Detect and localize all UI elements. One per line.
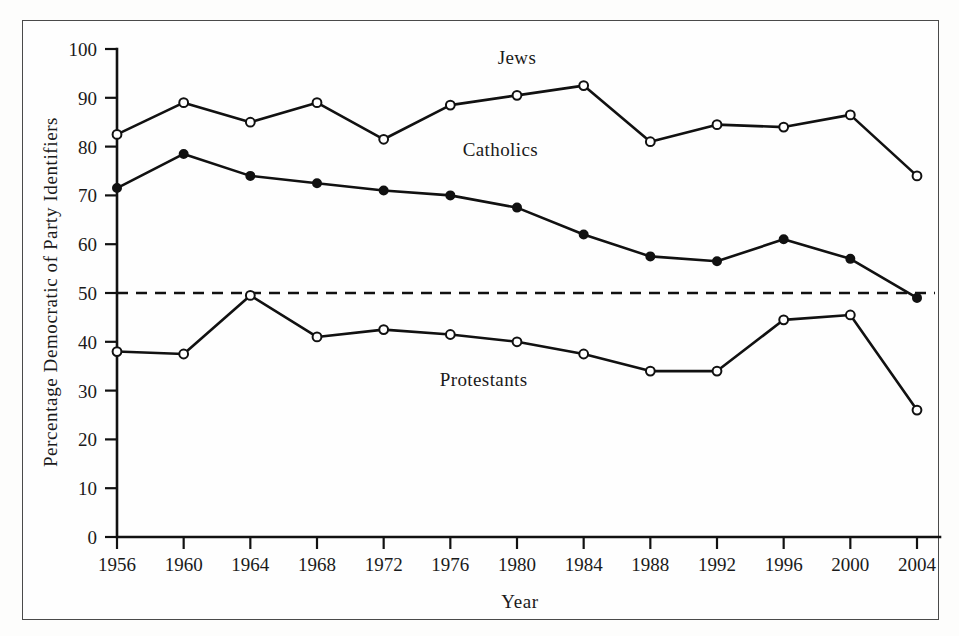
data-point-jews-1992 xyxy=(713,120,722,129)
data-point-catholics-1972 xyxy=(380,187,388,195)
data-point-protestants-2000 xyxy=(846,311,855,320)
x-tick-label: 1992 xyxy=(698,554,736,575)
data-point-protestants-1980 xyxy=(513,337,522,346)
y-tick-label: 70 xyxy=(78,185,97,206)
data-point-catholics-1960 xyxy=(180,150,188,158)
x-tick-label: 1980 xyxy=(498,554,536,575)
data-point-protestants-1968 xyxy=(313,333,322,342)
data-point-protestants-1984 xyxy=(579,350,588,359)
x-tick-label: 1988 xyxy=(631,554,669,575)
data-point-jews-1996 xyxy=(779,123,788,132)
figure-root: Percentage Democratic of Party Identifie… xyxy=(0,0,959,636)
y-tick-label: 40 xyxy=(78,332,97,353)
x-axis-title-label: Year xyxy=(501,591,538,612)
y-tick-label: 10 xyxy=(78,478,97,499)
x-tick-label: 2004 xyxy=(898,554,937,575)
series-markers xyxy=(113,81,922,414)
data-point-jews-1980 xyxy=(513,91,522,100)
y-tick-label: 100 xyxy=(69,39,98,60)
data-point-catholics-1956 xyxy=(113,184,121,192)
series-line-protestants xyxy=(117,295,917,410)
x-axis-title: Year xyxy=(501,591,538,612)
y-axis-title-label: Percentage Democratic of Party Identifie… xyxy=(40,117,61,467)
x-tick-label: 1984 xyxy=(565,554,604,575)
data-point-protestants-1976 xyxy=(446,330,455,339)
series-line-catholics xyxy=(117,154,917,298)
data-point-jews-1964 xyxy=(246,118,255,127)
y-axis-title: Percentage Democratic of Party Identifie… xyxy=(40,117,61,467)
y-tick-label: 90 xyxy=(78,88,97,109)
data-point-catholics-1992 xyxy=(713,257,721,265)
data-point-protestants-1996 xyxy=(779,315,788,324)
data-point-jews-2004 xyxy=(913,171,922,180)
data-point-catholics-1964 xyxy=(246,172,254,180)
x-tick-label: 2000 xyxy=(831,554,869,575)
x-tick-label: 1976 xyxy=(431,554,469,575)
y-tick-label: 0 xyxy=(88,527,98,548)
data-point-protestants-1964 xyxy=(246,291,255,300)
data-point-jews-1968 xyxy=(313,98,322,107)
data-point-protestants-1956 xyxy=(113,347,122,356)
data-point-protestants-1972 xyxy=(379,325,388,334)
x-tick-label: 1972 xyxy=(365,554,403,575)
data-point-jews-1984 xyxy=(579,81,588,90)
data-point-jews-2000 xyxy=(846,110,855,119)
data-point-protestants-1988 xyxy=(646,367,655,376)
x-tick-label: 1996 xyxy=(765,554,803,575)
x-tick-label: 1964 xyxy=(231,554,270,575)
x-tick-label: 1968 xyxy=(298,554,336,575)
data-point-catholics-1988 xyxy=(646,252,654,260)
data-point-catholics-1976 xyxy=(446,191,454,199)
series-label-catholics: Catholics xyxy=(463,139,538,160)
y-tick-label: 80 xyxy=(78,137,97,158)
y-tick-label: 20 xyxy=(78,429,97,450)
data-point-jews-1960 xyxy=(179,98,188,107)
series-label-protestants: Protestants xyxy=(440,369,528,390)
data-point-jews-1972 xyxy=(379,135,388,144)
data-point-jews-1956 xyxy=(113,130,122,139)
data-point-catholics-1968 xyxy=(313,179,321,187)
data-point-catholics-2000 xyxy=(846,255,854,263)
data-point-catholics-1980 xyxy=(513,204,521,212)
y-tick-label: 50 xyxy=(78,283,97,304)
data-point-protestants-2004 xyxy=(913,406,922,415)
data-point-catholics-1996 xyxy=(780,235,788,243)
series-lines xyxy=(117,86,917,411)
x-tick-label: 1956 xyxy=(98,554,136,575)
y-tick-label: 60 xyxy=(78,234,97,255)
x-axis-ticks xyxy=(117,537,917,549)
data-point-jews-1976 xyxy=(446,101,455,110)
y-axis-ticks xyxy=(105,49,117,537)
y-tick-label: 30 xyxy=(78,381,97,402)
y-axis-tick-labels: 0102030405060708090100 xyxy=(69,39,98,548)
x-tick-label: 1960 xyxy=(165,554,203,575)
line-chart: Percentage Democratic of Party Identifie… xyxy=(0,0,959,636)
data-point-protestants-1992 xyxy=(713,367,722,376)
data-point-catholics-2004 xyxy=(913,294,921,302)
data-point-jews-1988 xyxy=(646,137,655,146)
series-label-jews: Jews xyxy=(498,47,537,68)
data-point-protestants-1960 xyxy=(179,350,188,359)
x-axis-tick-labels: 1956196019641968197219761980198419881992… xyxy=(98,554,937,575)
data-point-catholics-1984 xyxy=(580,230,588,238)
